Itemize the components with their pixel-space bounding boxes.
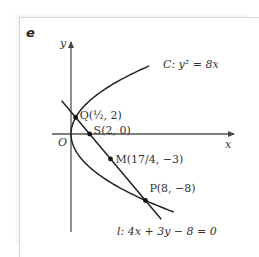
points-group: Q(½, 2)S(2, 0)M(17/4, −3)P(8, −8) [73,109,195,202]
point-Q [73,115,78,120]
point-label-S: S(2, 0) [94,124,131,137]
curve-label: C: y² = 8x [163,58,219,71]
figure-tag: e [26,25,35,40]
point-label-M: M(17/4, −3) [116,153,184,166]
point-P [143,198,148,203]
origin-label: O [58,136,67,149]
point-M [108,157,113,162]
x-axis-label: x [225,138,232,151]
point-S [87,132,92,137]
point-label-P: P(8, −8) [149,182,195,195]
line-label: l: 4x + 3y − 8 = 0 [117,225,217,238]
point-label-Q: Q(½, 2) [80,109,122,122]
y-axis-label: y [59,37,67,50]
